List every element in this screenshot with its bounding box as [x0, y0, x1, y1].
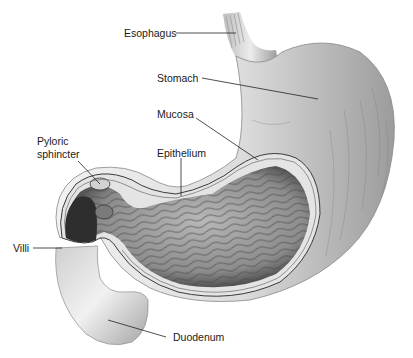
label-epithelium: Epithelium — [157, 147, 206, 159]
label-villi: Villi — [13, 242, 29, 254]
label-esophagus: Esophagus — [124, 27, 177, 39]
label-pyloric-sphincter-line2: sphincter — [37, 148, 80, 160]
esophagus-illustration — [223, 12, 278, 65]
label-pyloric-sphincter-line1: Pyloric — [37, 135, 69, 147]
label-duodenum: Duodenum — [173, 331, 225, 343]
stomach-anatomy-diagram: Esophagus Stomach Mucosa Pyloric sphinct… — [0, 0, 413, 358]
label-stomach: Stomach — [157, 72, 199, 84]
label-mucosa: Mucosa — [157, 108, 194, 120]
